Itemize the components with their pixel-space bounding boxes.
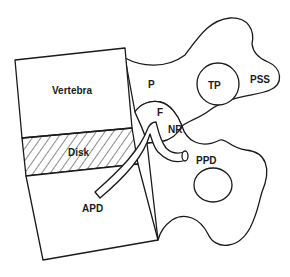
- label-apd: APD: [82, 203, 103, 214]
- label-p: P: [148, 79, 155, 90]
- spine-diagram: Vertebra Disk APD P TP PSS F NR PPD: [0, 0, 290, 277]
- label-nr: NR: [168, 124, 183, 135]
- label-pss: PSS: [250, 74, 270, 85]
- label-f: F: [157, 107, 163, 118]
- label-disk: Disk: [68, 147, 90, 158]
- nerve-root-end: [182, 151, 188, 161]
- label-ppd: PPD: [196, 155, 217, 166]
- label-tp: TP: [208, 80, 221, 91]
- label-vertebra: Vertebra: [52, 85, 92, 96]
- ppd-circle: [194, 168, 232, 202]
